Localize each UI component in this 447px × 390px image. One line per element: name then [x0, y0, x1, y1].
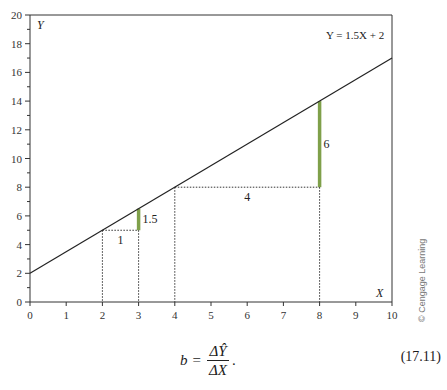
copyright-credit: © Cengage Learning: [417, 232, 429, 322]
y-tick-label: 14: [11, 95, 23, 107]
formula-equals: =: [193, 352, 201, 369]
formula-numerator: ΔŶ: [207, 342, 228, 361]
axes: 01234567891002468101214161820YX: [11, 9, 398, 321]
y-tick-label: 20: [11, 9, 23, 21]
x-tick-label: 0: [27, 309, 33, 321]
y-tick-label: 4: [17, 239, 23, 251]
y-axis-title: Y: [37, 18, 45, 32]
x-tick-label: 6: [244, 309, 250, 321]
y-tick-label: 0: [17, 296, 23, 308]
x-tick-label: 8: [317, 309, 323, 321]
slope-formula: b = ΔŶ ΔX .: [180, 335, 236, 385]
rise-label: 1.5: [143, 212, 158, 226]
x-tick-label: 4: [172, 309, 178, 321]
formula-denominator: ΔX: [207, 361, 229, 379]
y-tick-label: 2: [17, 267, 23, 279]
y-tick-label: 16: [11, 66, 23, 78]
rise-label: 6: [324, 137, 330, 151]
x-axis-title: X: [375, 286, 384, 300]
equation-number: (17.11): [401, 349, 441, 365]
data-series: [30, 58, 392, 273]
regression-line-chart: 01234567891002468101214161820YX 11.546 Y…: [0, 0, 447, 330]
run-label: 1: [118, 233, 124, 247]
x-tick-label: 9: [353, 309, 359, 321]
run-label: 4: [244, 190, 250, 204]
x-tick-label: 5: [208, 309, 214, 321]
y-tick-label: 18: [11, 38, 23, 50]
formula-period: .: [232, 352, 236, 369]
equation-label: Y = 1.5X + 2: [326, 29, 384, 41]
regression-line: [30, 58, 392, 273]
x-tick-label: 10: [387, 309, 399, 321]
formula-lhs: b: [180, 352, 188, 369]
y-tick-label: 10: [11, 153, 23, 165]
slope-annotations: 11.546: [102, 101, 329, 302]
y-tick-label: 6: [17, 210, 23, 222]
formula-fraction: ΔŶ ΔX: [207, 342, 229, 379]
x-tick-label: 7: [281, 309, 287, 321]
x-tick-label: 2: [100, 309, 106, 321]
y-tick-label: 12: [11, 124, 22, 136]
y-tick-label: 8: [17, 181, 23, 193]
x-tick-label: 1: [63, 309, 69, 321]
x-tick-label: 3: [136, 309, 142, 321]
